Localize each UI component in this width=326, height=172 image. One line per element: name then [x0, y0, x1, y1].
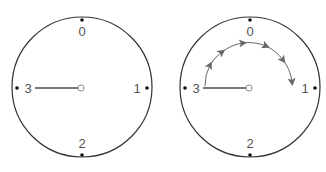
label-bottom: 2	[246, 136, 253, 151]
tick-dot-right	[313, 86, 317, 90]
tick-dot-top	[80, 18, 84, 22]
hub-circle	[246, 85, 252, 91]
tick-dot-left	[183, 86, 187, 90]
label-top: 0	[246, 24, 253, 39]
diagram: 0 1 2 3 0 1 2 3	[0, 0, 326, 172]
label-left: 3	[192, 81, 199, 96]
dial-left: 0 1 2 3	[12, 17, 152, 157]
tick-dot-bottom	[248, 153, 252, 157]
tick-dot-right	[145, 86, 149, 90]
label-bottom: 2	[78, 136, 85, 151]
dial-right: 0 1 2 3	[180, 17, 320, 157]
tick-dot-bottom	[80, 153, 84, 157]
label-top: 0	[78, 24, 85, 39]
label-right: 1	[133, 81, 140, 96]
rotation-arrow	[205, 43, 292, 86]
hub-circle	[78, 85, 84, 91]
tick-dot-top	[248, 18, 252, 22]
tick-dot-left	[15, 86, 19, 90]
label-left: 3	[24, 81, 31, 96]
label-right: 1	[301, 81, 308, 96]
